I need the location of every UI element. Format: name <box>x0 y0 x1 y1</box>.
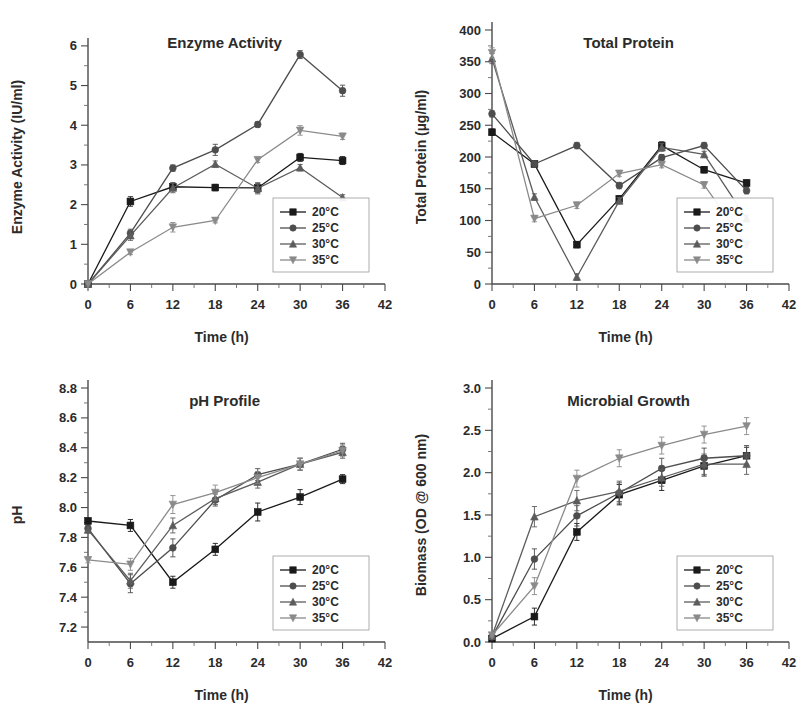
data-point-marker <box>531 613 538 620</box>
data-point-marker <box>743 180 750 187</box>
x-tick-label: 24 <box>250 297 265 312</box>
x-axis-title: Time (h) <box>599 687 653 703</box>
y-tick-label: 100 <box>459 213 481 228</box>
figure-canvas: 061218243036420123456Enzyme ActivityTime… <box>0 0 807 710</box>
data-point-marker <box>339 133 347 140</box>
legend-label: 20°C <box>312 563 339 577</box>
legend-label: 20°C <box>716 563 743 577</box>
legend-label: 25°C <box>312 221 339 235</box>
data-point-marker <box>290 567 296 573</box>
y-tick-label: 7.4 <box>59 590 78 605</box>
x-tick-label: 6 <box>531 297 538 312</box>
y-tick-label: 0.0 <box>463 635 481 650</box>
legend-label: 25°C <box>716 221 743 235</box>
chart-title: pH Profile <box>189 392 260 409</box>
x-tick-label: 36 <box>739 297 753 312</box>
legend-label: 20°C <box>312 205 339 219</box>
data-point-marker <box>694 225 700 231</box>
data-point-marker <box>297 154 304 161</box>
legend-label: 25°C <box>312 579 339 593</box>
legend-label: 30°C <box>312 595 339 609</box>
y-axis-title: pH <box>9 506 25 525</box>
x-tick-label: 42 <box>782 297 796 312</box>
legend-label: 30°C <box>716 237 743 251</box>
y-tick-label: 8.0 <box>59 500 77 515</box>
data-point-marker <box>85 518 92 525</box>
data-point-marker <box>573 512 580 519</box>
x-tick-label: 6 <box>127 297 134 312</box>
x-tick-label: 24 <box>250 655 265 670</box>
data-point-marker <box>488 49 496 56</box>
legend-label: 25°C <box>716 579 743 593</box>
y-axis-title: Biomass (OD @ 600 nm) <box>413 434 429 596</box>
x-tick-label: 6 <box>531 655 538 670</box>
x-tick-label: 30 <box>293 297 307 312</box>
x-tick-label: 42 <box>378 297 392 312</box>
data-point-marker <box>212 146 219 153</box>
x-axis-title: Time (h) <box>599 329 653 345</box>
chart-title: Total Protein <box>583 34 674 51</box>
y-tick-label: 250 <box>459 118 481 133</box>
y-axis-title: Total Protein (µg/ml) <box>413 90 429 225</box>
y-tick-label: 2.0 <box>463 465 481 480</box>
legend-label: 20°C <box>716 205 743 219</box>
x-axis-title: Time (h) <box>195 687 249 703</box>
x-tick-label: 18 <box>208 655 222 670</box>
y-tick-label: 0 <box>474 277 481 292</box>
y-tick-label: 8.4 <box>59 440 78 455</box>
data-point-marker <box>211 160 219 167</box>
x-tick-label: 0 <box>84 655 91 670</box>
x-axis-title: Time (h) <box>195 329 249 345</box>
y-tick-label: 6 <box>70 38 77 53</box>
data-point-marker <box>297 494 304 501</box>
data-point-marker <box>339 157 346 164</box>
data-point-marker <box>694 567 700 573</box>
x-tick-label: 42 <box>782 655 796 670</box>
data-point-marker <box>169 224 177 231</box>
chart-title: Microbial Growth <box>567 392 690 409</box>
legend-label: 35°C <box>716 253 743 267</box>
y-tick-label: 0 <box>70 277 77 292</box>
x-tick-label: 12 <box>166 297 180 312</box>
chart-title: Enzyme Activity <box>167 34 282 51</box>
chart-total-protein: 06121824303642050100150200250300350400To… <box>404 0 807 352</box>
data-point-marker <box>573 142 580 149</box>
data-point-marker <box>127 249 135 256</box>
x-tick-label: 30 <box>697 297 711 312</box>
x-tick-label: 30 <box>697 655 711 670</box>
panel-ph-profile: 061218243036427.27.47.67.88.08.28.48.68.… <box>0 358 403 710</box>
x-tick-label: 0 <box>488 655 495 670</box>
data-point-marker <box>531 193 539 200</box>
data-point-marker <box>290 209 296 215</box>
panel-microbial-growth: 061218243036420.00.51.01.52.02.53.0Micro… <box>404 358 807 710</box>
y-tick-label: 1.0 <box>463 550 481 565</box>
data-point-marker <box>127 522 134 529</box>
legend-label: 35°C <box>716 611 743 625</box>
y-tick-label: 7.8 <box>59 530 77 545</box>
data-point-marker <box>615 170 623 177</box>
chart-ph-profile: 061218243036427.27.47.67.88.08.28.48.68.… <box>0 358 403 710</box>
legend-label: 35°C <box>312 253 339 267</box>
y-axis-title: Enzyme Activity (IU/ml) <box>9 80 25 234</box>
y-tick-label: 0.5 <box>463 592 481 607</box>
x-tick-label: 36 <box>335 297 349 312</box>
y-tick-label: 300 <box>459 86 481 101</box>
x-tick-label: 36 <box>335 655 349 670</box>
x-tick-label: 12 <box>166 655 180 670</box>
x-tick-label: 12 <box>570 655 584 670</box>
chart-microbial-growth: 061218243036420.00.51.01.52.02.53.0Micro… <box>404 358 807 710</box>
y-tick-label: 200 <box>459 150 481 165</box>
data-point-marker <box>296 164 304 171</box>
data-point-marker <box>573 475 581 482</box>
data-point-marker <box>290 225 296 231</box>
legend: 20°C25°C30°C35°C <box>677 198 773 272</box>
x-tick-label: 12 <box>570 297 584 312</box>
data-point-marker <box>339 87 346 94</box>
data-point-marker <box>127 198 134 205</box>
y-tick-label: 7.6 <box>59 560 77 575</box>
data-point-marker <box>531 161 538 168</box>
data-point-marker <box>701 142 708 149</box>
y-tick-label: 1.5 <box>463 508 481 523</box>
data-point-marker <box>489 129 496 136</box>
data-point-marker <box>169 165 176 172</box>
